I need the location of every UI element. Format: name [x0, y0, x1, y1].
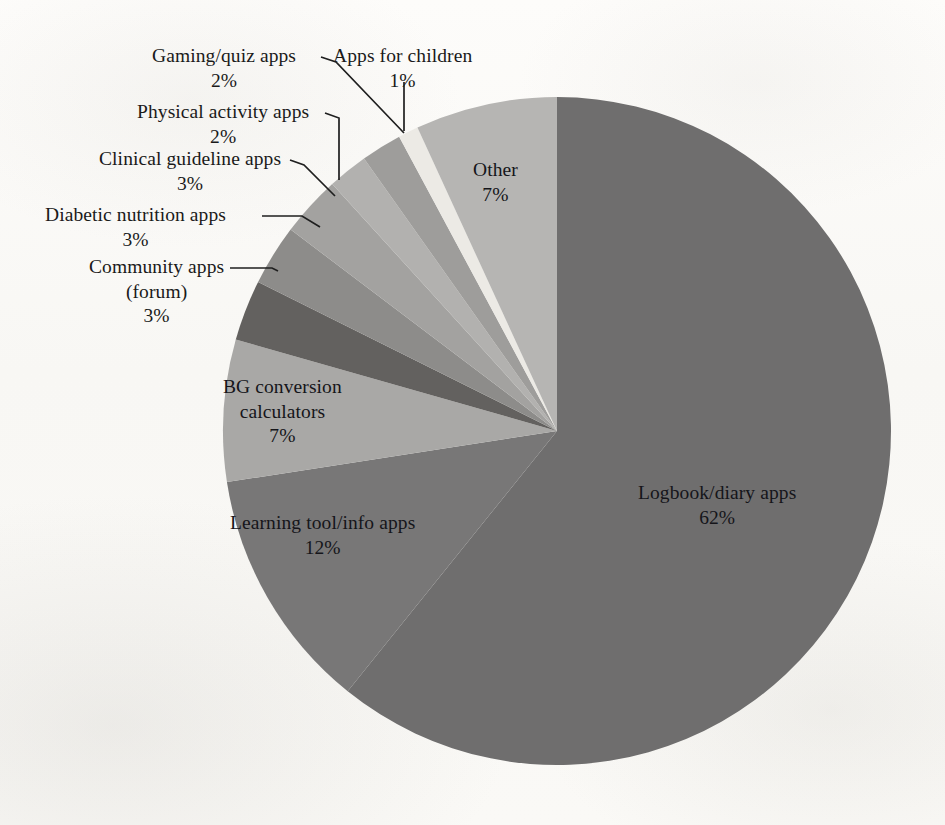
slice-label-community-apps-percent: 3%	[89, 304, 224, 329]
slice-label-bg-conversion-percent: 7%	[223, 424, 342, 449]
slice-label-diabetic-nutrition-name: Diabetic nutrition apps	[45, 204, 226, 225]
slice-label-physical-activity-percent: 2%	[137, 125, 309, 150]
slice-label-other: Other 7%	[473, 158, 518, 207]
pie-chart-figure: Gaming/quiz apps 2% Apps for children 1%…	[0, 0, 945, 825]
slice-label-gaming-quiz-percent: 2%	[152, 69, 296, 94]
slice-label-learning-tool-name: Learning tool/info apps	[230, 512, 415, 533]
slice-label-gaming-quiz: Gaming/quiz apps 2%	[152, 44, 296, 93]
slice-label-apps-children-percent: 1%	[333, 69, 472, 94]
slice-label-community-apps-name: Community apps	[89, 256, 224, 277]
slice-label-apps-children: Apps for children 1%	[333, 44, 472, 93]
slice-label-bg-conversion-name2: calculators	[223, 400, 342, 425]
slice-label-other-percent: 7%	[473, 183, 518, 208]
slice-label-physical-activity: Physical activity apps 2%	[137, 100, 309, 149]
slice-label-logbook-percent: 62%	[638, 506, 796, 531]
slice-label-gaming-quiz-name: Gaming/quiz apps	[152, 45, 296, 66]
slice-label-bg-conversion-name: BG conversion	[223, 376, 342, 397]
slice-label-logbook: Logbook/diary apps 62%	[638, 481, 796, 530]
slice-label-community-apps: Community apps (forum) 3%	[89, 255, 224, 329]
slice-label-diabetic-nutrition: Diabetic nutrition apps 3%	[45, 203, 226, 252]
slice-label-learning-tool: Learning tool/info apps 12%	[230, 511, 415, 560]
leader-line-physical-activity	[325, 113, 339, 180]
slice-label-other-name: Other	[473, 159, 518, 180]
slice-label-apps-children-name: Apps for children	[333, 45, 472, 66]
slice-label-community-apps-name2: (forum)	[89, 280, 224, 305]
slice-label-clinical-guideline-name: Clinical guideline apps	[99, 148, 281, 169]
slice-label-clinical-guideline-percent: 3%	[99, 172, 281, 197]
slice-label-bg-conversion: BG conversion calculators 7%	[223, 375, 342, 449]
slice-label-diabetic-nutrition-percent: 3%	[45, 228, 226, 253]
slice-label-clinical-guideline: Clinical guideline apps 3%	[99, 147, 281, 196]
slice-label-physical-activity-name: Physical activity apps	[137, 101, 309, 122]
slice-label-logbook-name: Logbook/diary apps	[638, 482, 796, 503]
slice-label-learning-tool-percent: 12%	[230, 536, 415, 561]
